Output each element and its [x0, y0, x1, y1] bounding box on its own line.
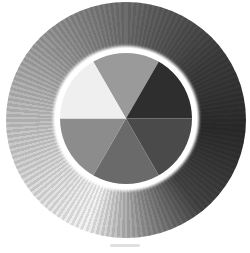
artwork — [0, 0, 250, 253]
inner-value-wheel — [60, 53, 192, 184]
pencil-smudge — [110, 244, 140, 247]
wedge-diagram — [60, 53, 192, 184]
